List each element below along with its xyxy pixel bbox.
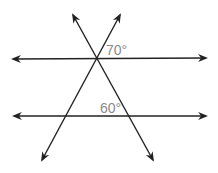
transversal-line-left <box>73 15 153 160</box>
transversal-line-right <box>42 15 120 160</box>
geometry-diagram: 70° 60° <box>0 0 218 173</box>
angle-label-70: 70° <box>106 42 127 58</box>
angle-label-60: 60° <box>100 100 121 116</box>
parallel-line-top <box>13 58 206 59</box>
